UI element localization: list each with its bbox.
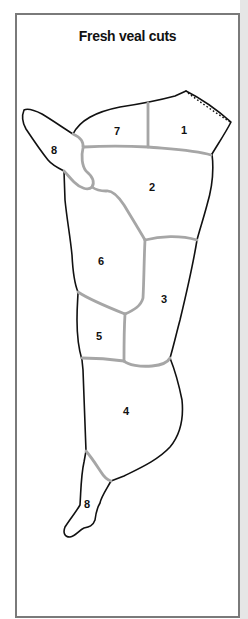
- cut-label-1: 1: [181, 124, 187, 136]
- cut-label-8-upper: 8: [51, 144, 57, 156]
- cut-label-8-lower: 8: [84, 498, 90, 510]
- cut-label-2: 2: [149, 181, 155, 193]
- cut-labels: 1 7 8 2 6 3 5 4 8: [51, 124, 187, 510]
- veal-carcass-diagram: 1 7 8 2 6 3 5 4 8: [0, 0, 248, 619]
- cut-label-7: 7: [114, 125, 120, 137]
- cut-label-6: 6: [98, 255, 104, 267]
- cut-label-4: 4: [123, 405, 130, 417]
- dotted-trim-line: [188, 93, 230, 122]
- cut-label-3: 3: [161, 293, 167, 305]
- cut-dividers: [64, 103, 211, 481]
- cut-label-5: 5: [96, 330, 102, 342]
